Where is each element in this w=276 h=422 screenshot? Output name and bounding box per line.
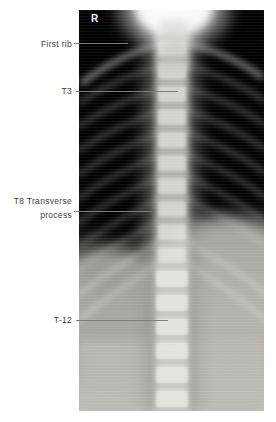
leader-line-t12 (76, 320, 168, 321)
leader-line-first-rib (74, 43, 128, 44)
leader-line-t3 (76, 91, 178, 92)
leader-line-t8-transverse-process (74, 211, 152, 212)
radiograph-figure: R First rib T3 T8 Transverse process T-1… (0, 0, 276, 422)
label-t12: T-12 (54, 313, 72, 327)
label-t8-transverse-process: T8 Transverse process (14, 194, 72, 222)
label-first-rib: First rib (41, 37, 72, 51)
label-t3: T3 (61, 84, 72, 98)
orientation-marker-r: R (91, 13, 99, 24)
